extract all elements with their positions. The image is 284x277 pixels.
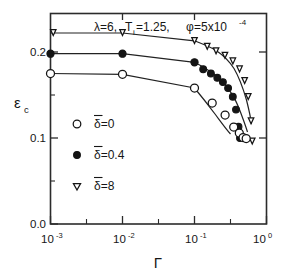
- svg-text:10: 10: [185, 233, 198, 245]
- x-tick-label-2: 10 -1: [185, 231, 207, 245]
- y-axis-title-symbol: ε: [14, 94, 21, 111]
- legend-item-delta-0: δ=0: [73, 116, 114, 132]
- y-tick-labels: 0.0 0.1 0.2: [30, 46, 46, 230]
- x-tick-label-1: 10 -2: [113, 231, 135, 245]
- y-tick-label-2: 0.2: [30, 46, 46, 58]
- legend-label-delta-0: δ=0: [94, 117, 115, 131]
- chart-legend: δ=0 δ=0.4 δ=8: [73, 116, 124, 194]
- x-tick-exponent-1: -2: [128, 231, 135, 240]
- svg-text:10: 10: [113, 233, 126, 245]
- chart-svg: 0.0 0.1 0.2 10 -3 10 -2: [0, 0, 284, 277]
- y-axis-ticks: [51, 52, 267, 224]
- x-axis-ticks: [51, 14, 267, 225]
- x-tick-label-0: 10 -3: [41, 231, 63, 245]
- x-axis-title: Γ: [154, 254, 162, 271]
- annotation-temp-subscript: i: [133, 28, 135, 37]
- legend-label-delta-8: δ=8: [94, 179, 115, 193]
- annotation-phi-value: =5x10: [194, 20, 227, 34]
- x-tick-exponent-0: -3: [56, 231, 63, 240]
- y-tick-label-1: 0.1: [30, 132, 46, 144]
- legend-marker-filled-circle-icon: [74, 152, 81, 159]
- svg-text:10: 10: [41, 233, 54, 245]
- plot-frame: [51, 14, 267, 225]
- legend-marker-open-triangle-down-icon: [73, 184, 80, 191]
- x-tick-exponent-3: 0: [268, 231, 272, 240]
- annotation-temp-value: =1.25,: [136, 20, 170, 34]
- legend-label-delta-04: δ=0.4: [94, 148, 125, 162]
- x-tick-label-3: 10 0: [253, 231, 272, 245]
- legend-item-delta-04: δ=0.4: [74, 147, 125, 163]
- x-tick-exponent-2: -1: [200, 231, 207, 240]
- y-axis-title-subscript: c: [24, 104, 29, 115]
- legend-marker-open-circle-icon: [73, 120, 81, 128]
- annotation-phi-exponent: -4: [239, 18, 247, 27]
- x-tick-labels: 10 -3 10 -2 10 -1 10 0: [41, 231, 272, 245]
- y-axis-title: ε c: [14, 94, 29, 115]
- y-tick-label-0: 0.0: [30, 218, 46, 230]
- plot-annotation: λ=6, T i =1.25, φ =5x10 -4: [94, 18, 247, 37]
- legend-item-delta-8: δ=8: [73, 178, 114, 194]
- annotation-phi-symbol: φ: [186, 20, 194, 34]
- annotation-temp-symbol: T: [125, 20, 133, 34]
- svg-text:10: 10: [253, 233, 266, 245]
- annotation-lambda: λ=6,: [94, 20, 117, 34]
- chart-figure: 0.0 0.1 0.2 10 -3 10 -2: [0, 0, 284, 277]
